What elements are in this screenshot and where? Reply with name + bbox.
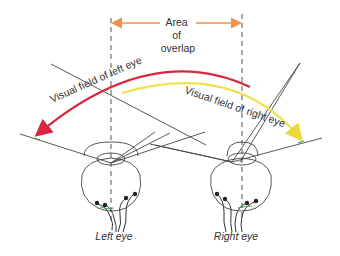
visual-field-diagram: Area of overlap Visual field of left eye… (0, 0, 340, 256)
right-eye-label: Right eye (214, 230, 259, 242)
left-eye-label: Left eye (95, 230, 133, 242)
left-optic-nerve (98, 193, 135, 232)
overlap-label: Area of overlap (161, 16, 196, 54)
right-optic-nerve (217, 194, 256, 232)
right-eye (211, 142, 272, 232)
